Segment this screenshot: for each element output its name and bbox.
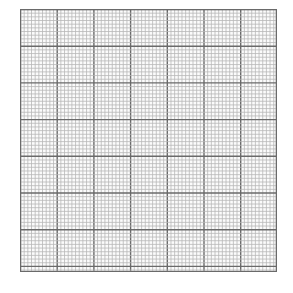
page bbox=[0, 0, 293, 293]
grid-lines bbox=[20, 9, 277, 272]
graph-paper-grid bbox=[20, 9, 277, 272]
